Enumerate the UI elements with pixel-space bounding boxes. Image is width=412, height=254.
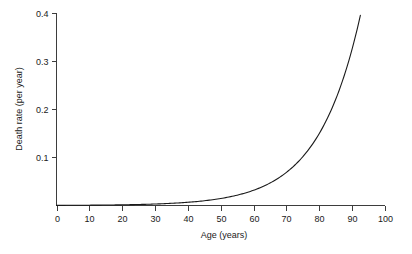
chart-figure: 0102030405060708090100 0.10.20.30.4 Age … [0,0,412,254]
x-tick-label: 20 [117,214,127,224]
chart-svg: 0102030405060708090100 0.10.20.30.4 Age … [0,0,412,254]
x-tick-label: 90 [347,214,357,224]
x-tick-label: 40 [183,214,193,224]
x-tick-label: 80 [314,214,324,224]
y-tick-label: 0.4 [36,9,49,19]
y-tick-label: 0.2 [36,105,49,115]
x-tick-label: 0 [55,214,60,224]
x-tick-label: 10 [84,214,94,224]
x-axis-title: Age (years) [201,230,248,240]
y-tick-label: 0.1 [36,153,49,163]
y-axis-title: Death rate (per year) [14,67,24,151]
x-tick-label: 70 [281,214,291,224]
x-tick-label: 60 [249,214,259,224]
y-tick-label: 0.3 [36,57,49,67]
x-tick-label: 50 [216,214,226,224]
x-tick-label: 30 [150,214,160,224]
x-tick-label: 100 [378,214,393,224]
